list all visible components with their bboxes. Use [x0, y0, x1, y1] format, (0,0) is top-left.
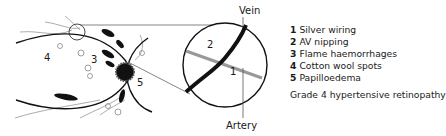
legend-item: 3Flame haemorrhages: [290, 48, 397, 60]
legend: 1Silver wiring 2AV nipping 3Flame haemor…: [290, 24, 397, 101]
legend-item: 1Silver wiring: [290, 24, 397, 36]
label-silver-wiring: 1: [230, 66, 236, 78]
legend-item: 5Papilloedema: [290, 72, 397, 84]
label-flame: 3: [91, 54, 97, 66]
label-av-nipping: 2: [207, 39, 213, 51]
legend-caption: Grade 4 hypertensive retinopathy: [290, 89, 385, 101]
label-papilloedema: 5: [137, 77, 143, 89]
legend-item: 4Cotton wool spots: [290, 60, 397, 72]
label-cotton-wool: 4: [44, 52, 50, 64]
label-vein: Vein: [239, 5, 260, 17]
legend-item: 2AV nipping: [290, 36, 397, 48]
label-artery: Artery: [226, 120, 257, 132]
